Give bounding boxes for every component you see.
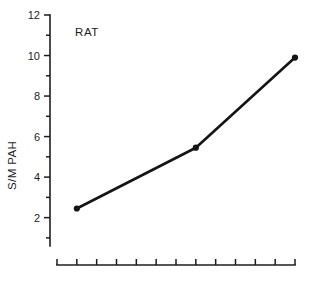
y-tick-label: 8 — [34, 90, 40, 102]
y-tick-label: 6 — [34, 131, 40, 143]
data-series-group — [77, 58, 295, 209]
plot-annotation-rat: RAT — [75, 26, 99, 38]
data-point-marker — [193, 145, 199, 151]
data-point-marker — [292, 54, 298, 60]
y-axis-ticks — [44, 15, 50, 238]
y-tick-label: 2 — [34, 212, 40, 224]
y-tick-label: 4 — [34, 171, 40, 183]
y-tick-label: 12 — [28, 9, 40, 21]
series-line-rat — [77, 58, 295, 209]
data-point-markers — [74, 54, 298, 211]
data-point-marker — [74, 205, 80, 211]
y-axis-title: S/M PAH — [6, 141, 18, 190]
x-axis-ticks — [57, 259, 295, 265]
line-chart: 24681012 S/M PAH RAT — [0, 0, 314, 299]
y-axis-tick-labels: 24681012 — [28, 9, 40, 224]
y-tick-label: 10 — [28, 50, 40, 62]
chart-figure: 24681012 S/M PAH RAT — [0, 0, 314, 299]
